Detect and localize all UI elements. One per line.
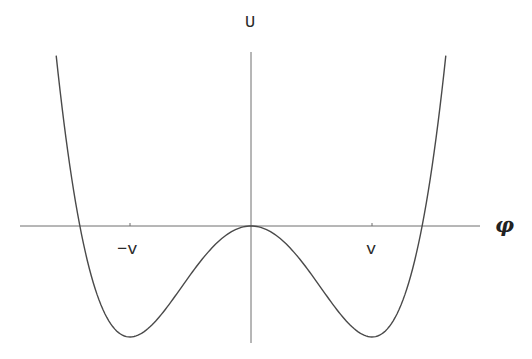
x-axis-label: φ — [495, 212, 514, 237]
potential-plot: U φ −v v — [0, 0, 532, 359]
tick-label-pos-v: v — [366, 240, 376, 259]
tick-label-neg-v: −v — [117, 240, 137, 259]
y-axis-label: U — [245, 13, 255, 32]
